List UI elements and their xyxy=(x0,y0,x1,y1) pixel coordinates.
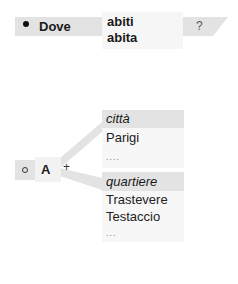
bullet-hollow-icon xyxy=(22,167,28,173)
answer-box: abiti abita xyxy=(102,12,183,49)
bullet-filled-icon xyxy=(23,21,29,27)
category-header-citta: città xyxy=(102,110,184,128)
root-label: A xyxy=(41,161,50,178)
category-title: città xyxy=(106,111,130,127)
dove-label: Dove xyxy=(39,18,71,35)
ellipsis: .... xyxy=(106,152,120,162)
question-box: ? xyxy=(183,17,213,36)
question-mark: ? xyxy=(196,18,203,35)
list-item: Parigi xyxy=(106,130,139,146)
tree-connectors xyxy=(60,110,104,195)
category-title: quartiere xyxy=(106,174,157,190)
category-header-quartiere: quartiere xyxy=(102,172,184,191)
answer-option-abiti: abiti xyxy=(107,14,134,29)
category-list-quartiere: Trastevere Testaccio ... xyxy=(102,191,184,242)
root-marker-box xyxy=(15,160,35,180)
list-item: Testaccio xyxy=(106,209,160,225)
answer-option-abita: abita xyxy=(107,30,137,45)
list-item: Trastevere xyxy=(106,192,168,208)
ellipsis: ... xyxy=(106,228,117,238)
root-node: A xyxy=(35,157,61,182)
plus-icon: + xyxy=(63,159,70,176)
dove-box: Dove xyxy=(15,17,102,36)
category-list-citta: Parigi .... xyxy=(102,128,184,168)
